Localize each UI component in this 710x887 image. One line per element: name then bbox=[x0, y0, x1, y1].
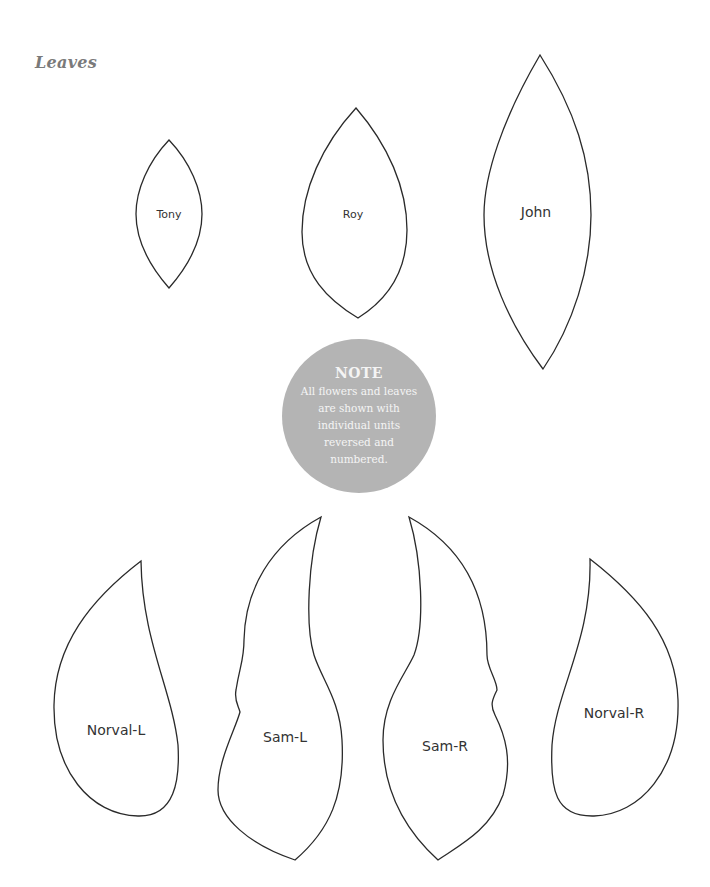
leaf-label-sam-l: Sam-L bbox=[263, 729, 307, 745]
leaf-sam-r-outline bbox=[383, 517, 508, 860]
leaf-label-sam-r: Sam-R bbox=[422, 738, 468, 754]
leaf-label-norval-l: Norval-L bbox=[87, 722, 145, 738]
leaf-label-john: John bbox=[521, 204, 551, 220]
note-title: NOTE bbox=[335, 365, 383, 381]
leaf-norval-r-outline bbox=[552, 559, 678, 816]
leaf-label-norval-r: Norval-R bbox=[584, 705, 644, 721]
note-badge: NOTE All flowers and leaves are shown wi… bbox=[282, 339, 436, 493]
leaf-norval-l-outline bbox=[54, 561, 178, 816]
leaf-sam-l-outline bbox=[218, 517, 342, 860]
leaf-label-tony: Tony bbox=[156, 208, 181, 221]
note-body: All flowers and leaves are shown with in… bbox=[294, 383, 424, 468]
leaf-label-roy: Roy bbox=[343, 208, 363, 221]
